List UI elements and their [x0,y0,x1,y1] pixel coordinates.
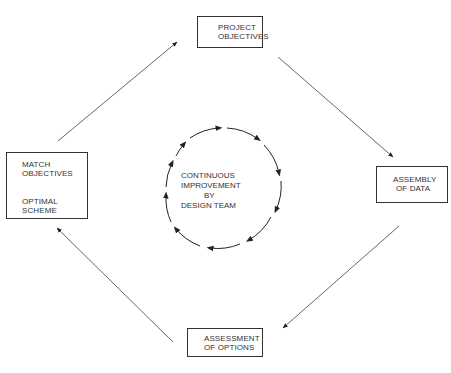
arrow-left-to-top [58,42,177,141]
node-match-objectives: MATCH OBJECTIVES OPTIMAL SCHEME [6,152,88,219]
center-label-line2: IMPROVEMENT [167,181,271,191]
arrow-top-to-right [278,57,393,157]
node-assembly-of-data-line2: OF DATA [396,184,430,194]
node-assessment-of-options: ASSESSMENT OF OPTIONS [187,328,263,357]
center-label-line3: BY [167,191,271,201]
center-label: CONTINUOUS IMPROVEMENT BY DESIGN TEAM [167,171,271,211]
node-project-objectives-line2: OBJECTIVES [218,32,269,42]
center-label-line1: CONTINUOUS [167,171,271,181]
node-match-objectives-line2: OBJECTIVES [22,169,73,179]
node-match-objectives-line4: SCHEME [22,206,57,216]
arrow-right-to-bottom [283,226,399,328]
arrow-bottom-to-left [57,228,173,342]
center-label-line4: DESIGN TEAM [167,201,271,211]
node-assessment-of-options-line2: OF OPTIONS [204,343,254,353]
node-assembly-of-data: ASSEMBLY OF DATA [376,166,448,203]
node-project-objectives: PROJECT OBJECTIVES [197,16,263,48]
